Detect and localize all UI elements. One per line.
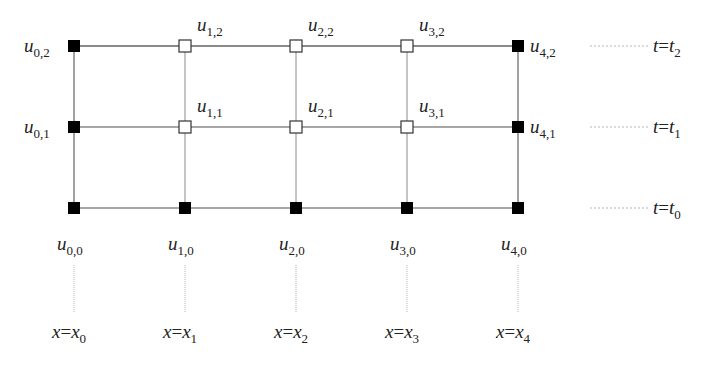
space-label-x1: x=x1	[163, 322, 197, 341]
known-node-4-0	[512, 202, 524, 214]
node-label-u-3-2: u3,2	[419, 15, 445, 34]
unknown-node-3-2	[401, 40, 413, 52]
finite-difference-grid	[0, 0, 701, 366]
known-node-3-0	[401, 202, 413, 214]
space-label-x4: x=x4	[496, 322, 530, 341]
time-label-t0: t=t0	[653, 198, 681, 217]
node-label-u-0-1: u0,1	[24, 117, 50, 136]
node-label-u-2-1: u2,1	[308, 96, 334, 115]
known-node-4-1	[512, 121, 524, 133]
node-label-u-4-0: u4,0	[501, 234, 527, 253]
node-label-u-4-1: u4,1	[530, 117, 556, 136]
known-node-0-1	[68, 121, 80, 133]
known-node-1-0	[179, 202, 191, 214]
space-label-x0: x=x0	[52, 322, 86, 341]
node-label-u-3-1: u3,1	[419, 96, 445, 115]
unknown-node-3-1	[401, 121, 413, 133]
known-node-0-2	[68, 40, 80, 52]
unknown-node-2-2	[290, 40, 302, 52]
node-label-u-1-0: u1,0	[168, 234, 194, 253]
time-label-t1: t=t1	[653, 117, 681, 136]
space-label-x3: x=x3	[385, 322, 419, 341]
time-label-t2: t=t2	[653, 36, 681, 55]
space-label-x2: x=x2	[274, 322, 308, 341]
node-label-u-3-0: u3,0	[390, 234, 416, 253]
unknown-node-1-1	[179, 121, 191, 133]
known-node-4-2	[512, 40, 524, 52]
node-label-u-1-2: u1,2	[197, 15, 223, 34]
known-node-2-0	[290, 202, 302, 214]
guide-lines	[74, 46, 650, 313]
unknown-node-1-2	[179, 40, 191, 52]
node-label-u-2-2: u2,2	[308, 15, 334, 34]
node-label-u-1-1: u1,1	[197, 96, 223, 115]
node-label-u-0-2: u0,2	[24, 36, 50, 55]
node-label-u-2-0: u2,0	[279, 234, 305, 253]
known-node-0-0	[68, 202, 80, 214]
unknown-node-2-1	[290, 121, 302, 133]
node-label-u-0-0: u0,0	[57, 234, 83, 253]
node-label-u-4-2: u4,2	[530, 36, 556, 55]
